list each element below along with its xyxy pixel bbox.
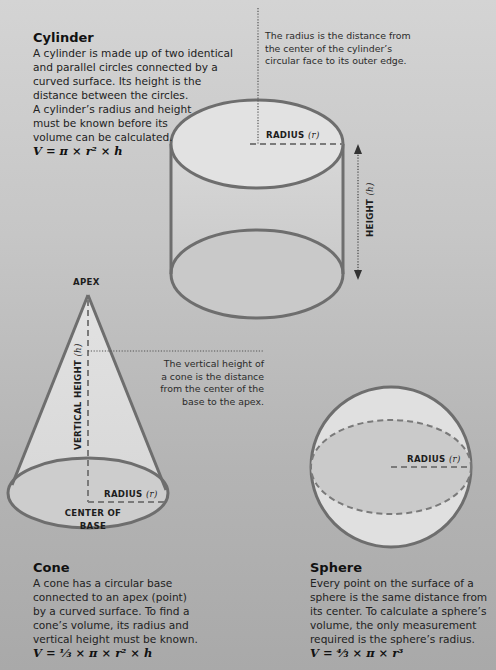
height-var: (h) [365, 182, 375, 195]
sphere-text-line: sphere is the same distance from [310, 590, 496, 604]
cone-text-line: by a curved surface. To find a [33, 604, 263, 618]
radius-label-text: RADIUS [407, 454, 446, 464]
cylinder-title: Cylinder [33, 30, 263, 46]
note-line: circular face to its outer edge. [265, 55, 465, 68]
cylinder-height-label: HEIGHT (h) [365, 182, 375, 237]
cone-text-line: cone’s volume, its radius and [33, 618, 263, 632]
cylinder-text-line: and parallel circles connected by a [33, 60, 263, 74]
sphere-formula: V = ⁴⁄₃ × π × r³ [310, 646, 496, 661]
sphere-text-line: Every point on the surface of a [310, 576, 496, 590]
radius-label-text: RADIUS [104, 489, 143, 499]
cylinder-radius-note: The radius is the distance from the cent… [265, 30, 465, 68]
sphere-text-line: volume, the only measurement [310, 618, 496, 632]
note-line: a cone is the distance [150, 371, 264, 384]
note-line: The vertical height of [150, 358, 264, 371]
radius-var: (r) [308, 130, 320, 140]
vertical-height-text: VERTICAL HEIGHT [73, 360, 83, 450]
cylinder-radius-label: RADIUS (r) [266, 130, 320, 140]
sphere-diagram [311, 387, 471, 547]
center-label-line: BASE [58, 520, 128, 533]
height-label-text: HEIGHT [365, 199, 375, 237]
cone-height-note: The vertical height of a cone is the dis… [150, 358, 264, 408]
sphere-description: Sphere Every point on the surface of a s… [310, 560, 496, 661]
cylinder-formula: V = π × r² × h [33, 144, 263, 159]
note-line: the center of the cylinder’s [265, 43, 465, 56]
cone-center-of-base-label: CENTER OF BASE [58, 507, 128, 533]
cone-description: Cone A cone has a circular base connecte… [33, 560, 263, 661]
center-label-line: CENTER OF [58, 507, 128, 520]
cone-apex-label: APEX [73, 277, 100, 287]
cylinder-description: Cylinder A cylinder is made up of two id… [33, 30, 263, 159]
note-line: The radius is the distance from [265, 30, 465, 43]
cylinder-text-line: distance between the circles. [33, 88, 263, 102]
cylinder-text-line: must be known before its [33, 116, 263, 130]
sphere-text-line: required is the sphere’s radius. [310, 632, 496, 646]
note-line: base to the apex. [150, 396, 264, 409]
cone-radius-label: RADIUS (r) [104, 489, 158, 499]
radius-var: (r) [146, 489, 158, 499]
vertical-height-var: (h) [73, 343, 83, 356]
cone-title: Cone [33, 560, 263, 576]
sphere-radius-label: RADIUS (r) [407, 454, 461, 464]
cone-formula: V = ⅓ × π × r² × h [33, 646, 263, 661]
cone-text-line: A cone has a circular base [33, 576, 263, 590]
apex-label-text: APEX [73, 277, 100, 287]
sphere-title: Sphere [310, 560, 496, 576]
radius-label-text: RADIUS [266, 130, 305, 140]
cylinder-text-line: A cylinder’s radius and height [33, 102, 263, 116]
cylinder-text-line: volume can be calculated. [33, 130, 263, 144]
cone-text-line: vertical height must be known. [33, 632, 263, 646]
cone-text-line: connected to an apex (point) [33, 590, 263, 604]
cylinder-text-line: curved surface. Its height is the [33, 74, 263, 88]
radius-var: (r) [449, 454, 461, 464]
cylinder-text-line: A cylinder is made up of two identical [33, 46, 263, 60]
note-line: from the center of the [150, 383, 264, 396]
cone-vertical-height-label: VERTICAL HEIGHT (h) [73, 343, 83, 450]
sphere-text-line: its center. To calculate a sphere’s [310, 604, 496, 618]
